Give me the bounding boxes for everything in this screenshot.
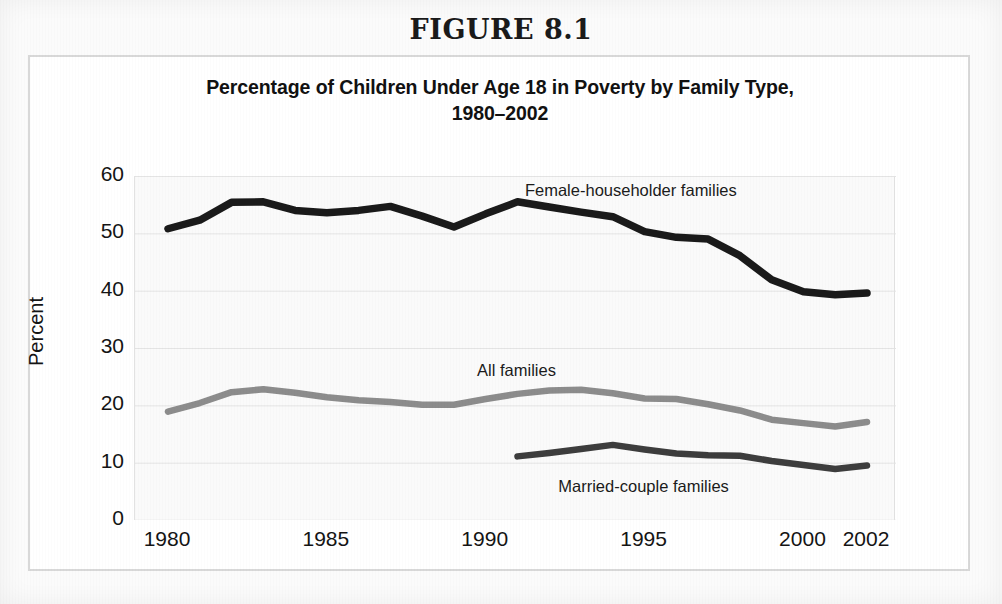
chart-title-line-2: 1980–2002: [452, 102, 549, 124]
x-tick-label-1990: 1990: [435, 527, 535, 551]
x-tick-label-1980: 1980: [117, 527, 217, 551]
series-label-married-couple-families: Married-couple families: [558, 477, 729, 496]
x-tick-label-1995: 1995: [594, 527, 694, 551]
y-tick-label-50: 50: [64, 219, 124, 243]
chart-title-line-1: Percentage of Children Under Age 18 in P…: [206, 76, 794, 98]
x-tick-label-2002: 2002: [816, 527, 916, 551]
plot-svg: [135, 176, 896, 520]
y-tick-label-60: 60: [64, 162, 124, 186]
series-label-all-families: All families: [477, 361, 556, 380]
y-axis-title: Percent: [25, 272, 48, 392]
series-line-all-families: [168, 389, 867, 426]
y-tick-label-0: 0: [64, 506, 124, 530]
y-tick-label-30: 30: [64, 334, 124, 358]
series-label-female-householder-families: Female-householder families: [525, 181, 737, 200]
y-tick-label-20: 20: [64, 391, 124, 415]
y-tick-label-10: 10: [64, 449, 124, 473]
series-line-female-householder-families: [168, 202, 867, 295]
y-tick-label-40: 40: [64, 277, 124, 301]
chart-title: Percentage of Children Under Age 18 in P…: [60, 74, 940, 126]
figure-page: FIGURE 8.1 Percentage of Children Under …: [0, 0, 1002, 604]
x-tick-label-1985: 1985: [276, 527, 376, 551]
series-line-married-couple-families: [518, 445, 868, 469]
gridlines: [135, 177, 896, 521]
plot-area: [134, 176, 895, 520]
figure-number-heading: FIGURE 8.1: [0, 14, 1002, 45]
y-axis-tick-labels: 6050403020100: [60, 0, 124, 604]
series-lines: [168, 202, 867, 469]
